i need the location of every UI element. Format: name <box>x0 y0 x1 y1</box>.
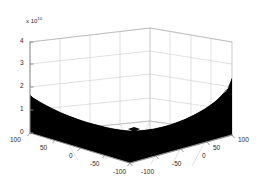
y-tick-label: -50 <box>172 161 181 168</box>
z-tick-label: 1 <box>20 106 24 113</box>
x-tick-label: 100 <box>10 137 21 144</box>
z-tick-label: 2 <box>20 83 24 90</box>
z-tick-label: 4 <box>20 38 24 45</box>
z-axis-exponent-label: x 1010 <box>26 17 42 24</box>
x-tick-label: -50 <box>90 161 99 168</box>
x-tick-label: -100 <box>113 169 126 176</box>
y-tick-label: -100 <box>141 169 154 176</box>
matlab-figure-surface-plot: x 1010 4 3 2 1 0 100 50 0 -50 -100 -100 … <box>0 0 265 194</box>
surface-plot-canvas <box>0 0 265 194</box>
x-tick-label: 0 <box>69 153 73 160</box>
exponent-prefix: x 10 <box>26 18 37 24</box>
exponent-power: 10 <box>37 16 42 21</box>
y-tick-label: 0 <box>202 153 206 160</box>
z-tick-label: 0 <box>20 129 24 136</box>
y-tick-label: 100 <box>238 137 249 144</box>
x-tick-label: 50 <box>40 145 47 152</box>
y-tick-label: 50 <box>213 145 220 152</box>
z-tick-label: 3 <box>20 60 24 67</box>
